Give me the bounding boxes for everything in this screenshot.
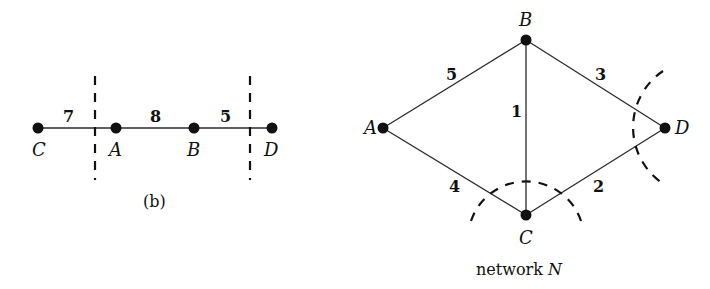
network-n: 5 3 1 4 2 A B C D network N (362, 9, 690, 279)
weight-a-c: 4 (449, 177, 460, 196)
figure-canvas: 7 8 5 C A B D (b) 5 3 1 4 2 A B C D netw… (0, 0, 710, 289)
label-d: D (263, 139, 279, 160)
label-a: A (362, 117, 377, 138)
label-c: C (519, 227, 533, 248)
label-b: B (186, 139, 200, 160)
edge-a-c (383, 128, 526, 215)
edge-a-b (383, 40, 526, 128)
weight-b-c: 1 (511, 102, 522, 121)
caption-prefix: network (476, 260, 548, 279)
vertex-c (521, 210, 532, 221)
vertex-a (378, 123, 389, 134)
label-a: A (107, 139, 122, 160)
weight-a-b: 5 (446, 65, 457, 84)
weight-c-d: 2 (593, 177, 604, 196)
vertex-d (660, 123, 671, 134)
vertex-b (189, 123, 200, 134)
weight-b-d: 5 (220, 107, 231, 126)
weight-a-b: 8 (150, 107, 161, 126)
label-c: C (32, 139, 46, 160)
weight-b-d: 3 (595, 65, 606, 84)
vertex-a (111, 123, 122, 134)
vertex-d (267, 123, 278, 134)
edge-c-d (526, 128, 665, 215)
caption-b: (b) (143, 192, 166, 211)
figure-b: 7 8 5 C A B D (b) (32, 76, 279, 211)
label-d: D (674, 117, 690, 138)
caption-network: network N (476, 260, 563, 279)
vertex-c (33, 123, 44, 134)
label-b: B (518, 9, 532, 30)
caption-variable: N (547, 260, 563, 279)
weight-c-a: 7 (63, 107, 74, 126)
vertex-b (521, 35, 532, 46)
edge-b-d (526, 40, 665, 128)
